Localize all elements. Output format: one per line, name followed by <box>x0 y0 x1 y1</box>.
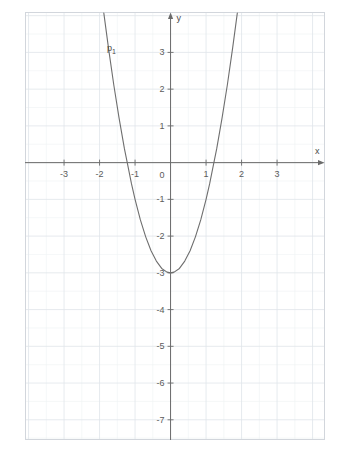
y-tick-label: -1 <box>157 195 165 204</box>
x-tick-label: -1 <box>131 170 139 179</box>
curve-label-subscript: 1 <box>112 48 116 55</box>
x-axis-label: x <box>315 147 320 156</box>
x-tick-label: 1 <box>204 170 209 179</box>
y-axis-label: y <box>177 14 182 23</box>
y-tick-label: 1 <box>160 121 165 130</box>
y-tick-label: 3 <box>160 48 165 57</box>
major-gridlines <box>25 12 325 440</box>
y-tick-label: -6 <box>157 379 165 388</box>
axes <box>25 13 325 441</box>
y-tick-label: -3 <box>157 268 165 277</box>
x-tick-label: 3 <box>275 170 280 179</box>
x-tick-label: 2 <box>239 170 244 179</box>
x-tick-label: -2 <box>96 170 104 179</box>
coordinate-plane-svg <box>0 0 342 465</box>
y-tick-label: -4 <box>157 305 165 314</box>
origin-label: 0 <box>160 170 165 179</box>
minor-gridlines <box>25 12 325 440</box>
y-tick-label: 2 <box>160 85 165 94</box>
y-tick-label: -2 <box>157 232 165 241</box>
plot-border <box>26 13 325 440</box>
x-tick-label: -3 <box>60 170 68 179</box>
curve-label: p1 <box>107 43 116 55</box>
y-tick-label: -5 <box>157 342 165 351</box>
chart-figure: -3-2-1123321-1-2-3-4-5-6-70 p1 x y <box>0 0 342 465</box>
y-tick-label: -7 <box>157 415 165 424</box>
